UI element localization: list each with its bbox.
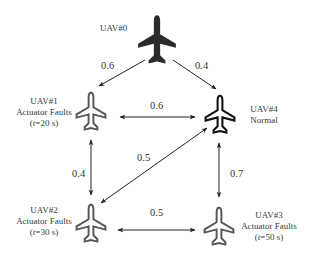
uav1-label: UAV#1 Actuator Faults (t=20 s) xyxy=(14,96,74,129)
uav2-status: Actuator Faults xyxy=(14,216,74,227)
weight-uav1-uav4: 0.6 xyxy=(150,100,163,111)
weight-uav4-uav3: 0.7 xyxy=(230,168,243,179)
uav3-name: UAV#3 xyxy=(238,210,300,221)
uav4-name: UAV#4 xyxy=(244,104,284,115)
weight-uav0-uav1: 0.6 xyxy=(101,60,114,71)
uav2-name: UAV#2 xyxy=(14,205,74,216)
uav2-plane-icon xyxy=(77,205,106,242)
uav0-label: UAV#0 xyxy=(100,23,127,34)
uav1-status: Actuator Faults xyxy=(14,107,74,118)
uav0-plane-icon xyxy=(138,15,176,63)
uav3-plane-icon xyxy=(205,208,234,245)
uav3-status: Actuator Faults xyxy=(238,221,300,232)
uav1-name: UAV#1 xyxy=(14,96,74,107)
uav4-label: UAV#4 Normal xyxy=(244,104,284,126)
uav4-status: Normal xyxy=(244,115,284,126)
weight-uav1-uav2: 0.4 xyxy=(72,168,85,179)
uav3-time: (t=50 s) xyxy=(238,232,300,243)
uav3-label: UAV#3 Actuator Faults (t=50 s) xyxy=(238,210,300,243)
edge-uav2-uav4 xyxy=(101,128,207,203)
weight-uav0-uav4: 0.4 xyxy=(195,60,208,71)
weight-uav2-uav3: 0.5 xyxy=(150,207,163,218)
uav4-plane-icon xyxy=(206,96,235,133)
uav1-plane-icon xyxy=(77,93,106,130)
uav2-label: UAV#2 Actuator Faults (t=30 s) xyxy=(14,205,74,238)
uav2-time: (t=30 s) xyxy=(14,227,74,238)
weight-uav2-uav4: 0.5 xyxy=(137,152,150,163)
uav0-name: UAV#0 xyxy=(100,23,127,33)
uav1-time: (t=20 s) xyxy=(14,118,74,129)
